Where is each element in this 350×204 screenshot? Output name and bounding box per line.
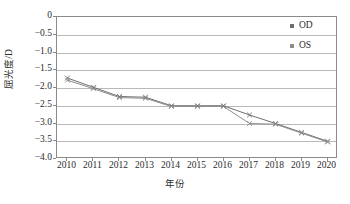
series-od — [65, 76, 330, 144]
x-axis-tick-label: 2010 — [57, 160, 76, 170]
x-axis-tick-label: 2020 — [317, 160, 336, 170]
legend-swatch-icon — [290, 24, 294, 28]
legend-item-os[interactable]: OS — [278, 36, 338, 56]
y-axis-tick-label: −2.0 — [0, 81, 52, 91]
legend-label: OD — [299, 21, 313, 31]
y-axis-tick-label: −3.5 — [0, 134, 52, 144]
x-axis-tick-label: 2012 — [109, 160, 128, 170]
x-axis-tick-mark — [327, 158, 328, 161]
x-axis-tick-label: 2017 — [239, 160, 258, 170]
y-axis-tick-label: −2.5 — [0, 99, 52, 109]
y-axis-tick-label: −1.0 — [0, 46, 52, 56]
data-point-marker — [325, 140, 330, 145]
y-axis-tick-label: −3.0 — [0, 117, 52, 127]
series-line — [67, 78, 327, 141]
x-axis-tick-mark — [145, 158, 146, 161]
x-axis-tick-mark — [92, 158, 93, 161]
x-axis-tick-mark — [301, 158, 302, 161]
x-axis-tick-mark — [171, 158, 172, 161]
x-axis-tick-label: 2018 — [265, 160, 284, 170]
x-axis-tick-label: 2019 — [291, 160, 310, 170]
x-axis-tick-label: 2015 — [187, 160, 206, 170]
x-axis-tick-label: 2016 — [213, 160, 232, 170]
y-axis-tick-label: −4.0 — [0, 152, 52, 162]
data-point-marker — [247, 113, 252, 118]
x-axis-tick-label: 2011 — [83, 160, 102, 170]
y-axis-tick-label: −1.5 — [0, 63, 52, 73]
x-axis-tick-mark — [66, 158, 67, 161]
legend-label: OS — [299, 41, 311, 51]
series-line — [67, 80, 327, 142]
x-axis-tick-mark — [118, 158, 119, 161]
x-axis-tick-mark — [223, 158, 224, 161]
legend-swatch-icon — [290, 44, 294, 48]
x-axis-tick-label: 2013 — [135, 160, 154, 170]
x-axis-tick-mark — [275, 158, 276, 161]
chart-legend: ODOS — [278, 16, 338, 56]
series-os — [65, 78, 330, 145]
y-axis-tick-label: 0 — [0, 10, 52, 20]
x-axis-label: 年份 — [0, 176, 350, 190]
x-axis-tick-label: 2014 — [161, 160, 180, 170]
legend-item-od[interactable]: OD — [278, 16, 338, 36]
x-axis-tick-mark — [249, 158, 250, 161]
y-axis-tick-mark — [53, 158, 56, 159]
chart-figure: 屈光度/D 0−0.5−1.0−1.5−2.0−2.5−3.0−3.5−4.0 … — [0, 0, 350, 204]
x-axis-tick-mark — [197, 158, 198, 161]
y-axis-tick-label: −0.5 — [0, 28, 52, 38]
